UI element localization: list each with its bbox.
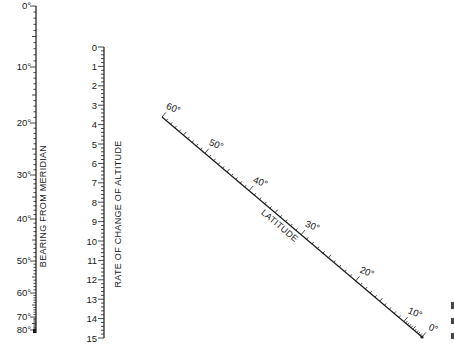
- rate-tick-label: 7: [92, 177, 97, 188]
- rate-tick-label: 6: [92, 158, 97, 169]
- bearing-tick-label: 40°: [17, 213, 32, 224]
- latitude-tick-label: 30°: [304, 218, 322, 234]
- rate-of-change-scale: 0123456789101112131415: [86, 42, 104, 344]
- bearing-tick-label: 60°: [17, 287, 32, 298]
- rate-tick-label: 9: [92, 216, 97, 227]
- latitude-tick-label: 20°: [358, 264, 376, 280]
- rate-tick-label: 2: [92, 80, 97, 91]
- latitude-axis-title: LATITUDE: [259, 207, 300, 244]
- bearing-tick-label: 30°: [17, 169, 32, 180]
- latitude-tick-label: 0°: [427, 321, 440, 335]
- rate-tick-label: 10: [86, 236, 97, 247]
- bearing-tick-label: 20°: [17, 117, 32, 128]
- latitude-tick-label: 50°: [208, 136, 226, 152]
- rate-tick-label: 13: [86, 294, 97, 305]
- rate-tick-label: 15: [86, 333, 97, 344]
- rate-tick-label: 11: [87, 255, 97, 266]
- rate-axis-title: RATE OF CHANGE OF ALTITUDE: [113, 141, 123, 288]
- bearing-tick-label: 0°: [22, 0, 31, 11]
- rate-tick-label: 12: [86, 274, 97, 285]
- latitude-scale: 60°50°40°30°20°10°0°: [162, 100, 440, 338]
- rate-tick-label: 4: [92, 119, 97, 130]
- rate-tick-label: 1: [92, 61, 97, 72]
- rate-tick-label: 5: [92, 139, 97, 150]
- latitude-tick-label: 60°: [165, 100, 183, 116]
- bearing-tick-label: 70°: [17, 311, 32, 322]
- latitude-tick-label: 40°: [252, 174, 270, 190]
- bearing-scale: 0°10°20°30°40°50°60°70°80°: [17, 0, 36, 335]
- rate-tick-label: 8: [92, 197, 97, 208]
- bearing-axis-title: BEARING FROM MERIDIAN: [38, 145, 48, 267]
- rate-tick-label: 0: [92, 42, 97, 53]
- rate-tick-label: 3: [92, 100, 97, 111]
- nomogram: 0°10°20°30°40°50°60°70°80° BEARING FROM …: [0, 0, 454, 357]
- rate-tick-label: 14: [86, 313, 97, 324]
- bearing-tick-label: 80°: [17, 324, 32, 335]
- latitude-tick-label: 10°: [407, 305, 425, 321]
- bearing-tick-label: 50°: [17, 255, 32, 266]
- bearing-tick-label: 10°: [17, 61, 32, 72]
